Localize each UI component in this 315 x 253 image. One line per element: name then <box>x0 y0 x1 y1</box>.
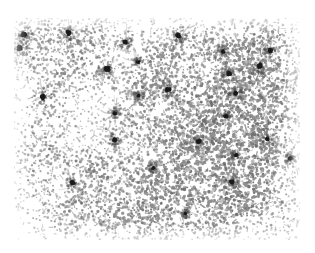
figure-root <box>0 0 315 253</box>
micrograph-canvas <box>14 18 300 240</box>
micrograph-image <box>14 18 300 240</box>
